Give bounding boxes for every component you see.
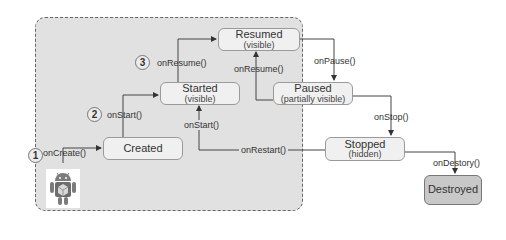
step-2-badge: 2 bbox=[87, 107, 102, 122]
state-sub: (visible) bbox=[184, 95, 215, 104]
label-onstart-stopped: onStart() bbox=[183, 120, 220, 130]
label-onresume-started: onResume() bbox=[157, 58, 207, 68]
step-1-badge: 1 bbox=[28, 148, 43, 163]
label-onresume-paused: onResume() bbox=[234, 64, 284, 74]
state-sub: (partially visible) bbox=[281, 95, 346, 104]
label-onstop: onStop() bbox=[374, 112, 409, 122]
state-sub: (hidden) bbox=[348, 150, 381, 159]
android-robot-icon bbox=[46, 169, 80, 208]
state-sub: (visible) bbox=[243, 41, 274, 50]
step-3-badge: 3 bbox=[135, 55, 150, 70]
state-destroyed: Destroyed bbox=[424, 175, 482, 205]
state-name: Destroyed bbox=[428, 184, 478, 196]
state-created: Created bbox=[103, 137, 183, 160]
state-name: Paused bbox=[294, 83, 331, 95]
state-started: Started (visible) bbox=[160, 82, 240, 105]
label-oncreate: onCreate() bbox=[43, 148, 86, 158]
label-onstart-created: onStart() bbox=[107, 110, 142, 120]
state-name: Started bbox=[182, 83, 217, 95]
state-paused: Paused (partially visible) bbox=[273, 82, 353, 105]
state-name: Created bbox=[123, 143, 162, 155]
state-resumed: Resumed (visible) bbox=[218, 28, 300, 51]
label-ondestroy: onDestory() bbox=[433, 158, 480, 168]
label-onpause: onPause() bbox=[314, 56, 356, 66]
label-onrestart: onRestart() bbox=[239, 145, 288, 155]
state-stopped: Stopped (hidden) bbox=[325, 137, 405, 161]
state-name: Resumed bbox=[235, 29, 282, 41]
